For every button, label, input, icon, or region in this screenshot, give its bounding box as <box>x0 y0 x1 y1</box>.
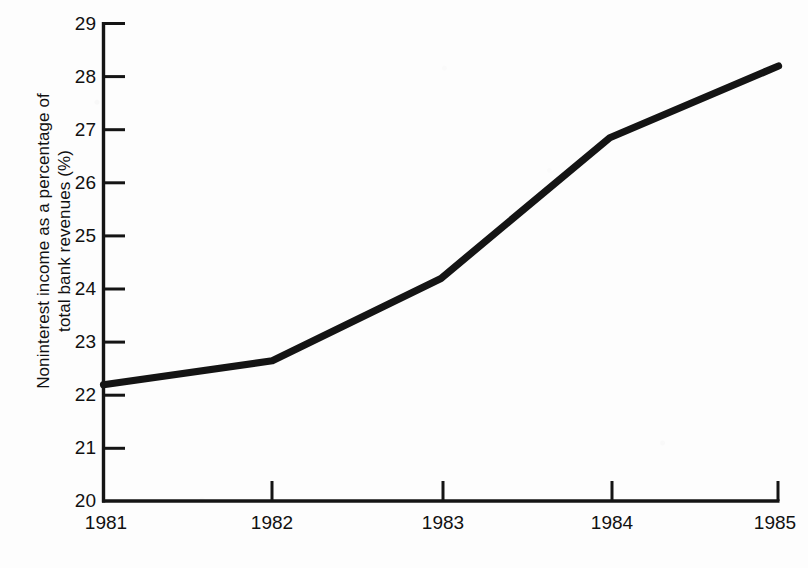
x-tick-label-1982: 1982 <box>251 512 293 534</box>
y-tick-label-25: 25 <box>52 225 96 247</box>
chart-figure: Noninterest income as a percentage of to… <box>0 0 808 568</box>
y-tick-label-24: 24 <box>52 278 96 300</box>
y-tick-label-26: 26 <box>52 172 96 194</box>
x-tick-label-1981: 1981 <box>85 512 127 534</box>
x-axis-ticks <box>272 481 778 501</box>
y-tick-label-29: 29 <box>52 13 96 35</box>
data-line-noninterest-income <box>104 66 779 385</box>
plot-area <box>0 0 808 568</box>
y-tick-label-22: 22 <box>52 384 96 406</box>
x-tick-label-1985: 1985 <box>754 512 796 534</box>
y-tick-label-21: 21 <box>52 437 96 459</box>
x-tick-label-1984: 1984 <box>591 512 633 534</box>
y-tick-label-27: 27 <box>52 119 96 141</box>
y-tick-label-28: 28 <box>52 66 96 88</box>
x-tick-label-1983: 1983 <box>422 512 464 534</box>
y-tick-label-23: 23 <box>52 331 96 353</box>
y-tick-label-20: 20 <box>52 490 96 512</box>
